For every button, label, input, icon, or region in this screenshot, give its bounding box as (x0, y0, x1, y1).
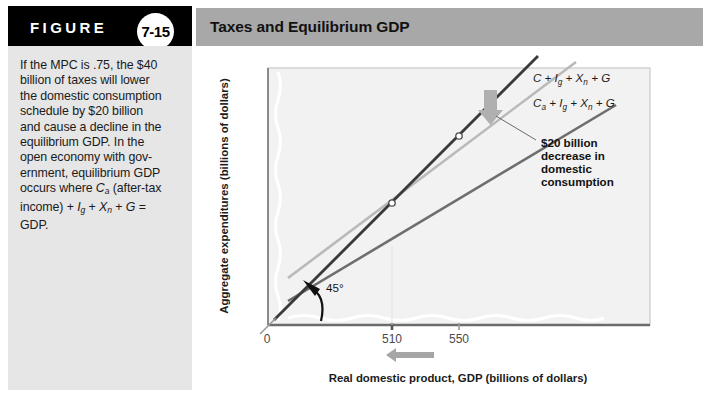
gdp-decrease-arrow-icon (386, 348, 434, 362)
annotation-line-2: decrease in (541, 149, 605, 162)
caption-line: income) + Ig + Xn + G = (20, 200, 180, 218)
figure-number-badge: 7-15 (137, 13, 174, 50)
figure-title: Taxes and Equilibrium GDP (210, 18, 410, 36)
x-tick-label-550: 550 (449, 332, 469, 346)
x-tick-label-510: 510 (382, 332, 402, 346)
caption-line: the domestic consumption (20, 89, 180, 104)
aggregate-expenditures-chart: C + Ig + Xn + G Ca + Ig + Xn + G $20 bil… (196, 46, 703, 390)
figure-header-bar: FIGURE 7-15 (8, 6, 192, 46)
caption-line: and cause a decline in the (20, 120, 180, 135)
annotation-line-4: consumption (541, 175, 614, 188)
figure-container: FIGURE 7-15 If the MPC is .75, the $40bi… (0, 0, 711, 398)
figure-word-label: FIGURE (30, 19, 107, 36)
caption-text: If the MPC is .75, the $40billion of tax… (20, 58, 180, 233)
caption-line: GDP. (20, 218, 180, 233)
chart-region: C + Ig + Xn + G Ca + Ig + Xn + G $20 bil… (196, 46, 703, 390)
y-axis-title: Aggregate expenditures (billions of doll… (218, 78, 230, 314)
annotation-line-3: domestic (541, 162, 592, 175)
title-bar: Taxes and Equilibrium GDP (196, 8, 703, 46)
caption-line: schedule by $20 billion (20, 104, 180, 119)
equilibrium-point-before-tax (456, 133, 462, 139)
figure-number-label: 7-15 (141, 23, 169, 40)
equilibrium-point-after-tax (389, 200, 395, 206)
x-tick-label-0: 0 (264, 332, 271, 346)
angle-label-45: 45° (326, 281, 344, 294)
x-axis-title: Real domestic product, GDP (billions of … (329, 372, 588, 384)
caption-line: billion of taxes will lower (20, 73, 180, 88)
caption-line: ernment, equilibrium GDP (20, 166, 180, 181)
annotation-line-1: $20 billion (541, 136, 598, 149)
caption-line: If the MPC is .75, the $40 (20, 58, 180, 73)
caption-line: equilibrium GDP. In the (20, 135, 180, 150)
caption-line: open economy with gov- (20, 150, 180, 165)
caption-line: occurs where Ca (after-tax (20, 181, 180, 199)
